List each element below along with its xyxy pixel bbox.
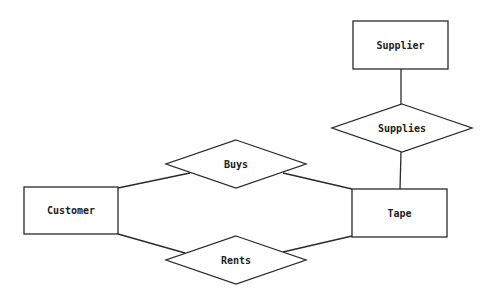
relationship-label: Rents	[221, 255, 251, 266]
connection-customer-rents	[118, 234, 185, 253]
relationship-label: Supplies	[378, 123, 426, 134]
relationship-label: Buys	[224, 159, 248, 170]
entity-label: Customer	[47, 205, 95, 216]
connection-customer-buys	[118, 173, 190, 188]
entity-supplier[interactable]: Supplier	[353, 21, 448, 69]
relationship-supplies[interactable]: Supplies	[332, 104, 472, 152]
relationship-rents[interactable]: Rents	[166, 236, 306, 284]
connection-supplies-tape	[400, 152, 401, 189]
entity-label: Supplier	[376, 40, 424, 51]
entity-customer[interactable]: Customer	[24, 187, 118, 234]
er-diagram: SuppliesBuysRents SupplierCustomerTape	[0, 0, 495, 300]
connection-rents-tape	[283, 236, 352, 252]
entity-label: Tape	[387, 208, 411, 219]
entity-tape[interactable]: Tape	[352, 189, 447, 237]
relationship-buys[interactable]: Buys	[166, 140, 306, 188]
connection-buys-tape	[283, 173, 352, 189]
